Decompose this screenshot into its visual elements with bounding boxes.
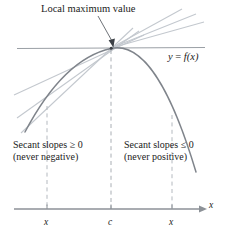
tick-label-left-x: x: [44, 217, 48, 227]
local-maximum-label: Local maximum value: [41, 3, 135, 15]
right-region-annotation: Secant slopes ≤ 0 (never positive): [124, 139, 194, 163]
x-axis-arrowhead: [199, 205, 207, 212]
local-max-point: [110, 47, 113, 50]
left-region-line-1: Secant slopes ≥ 0: [13, 139, 83, 151]
secant-line-left-3: [21, 28, 133, 133]
diagram-canvas: [0, 0, 225, 235]
function-equation-label: y = f(x): [168, 51, 198, 63]
right-region-line-1: Secant slopes ≤ 0: [124, 139, 194, 151]
x-axis-label: x: [209, 200, 213, 210]
local-max-leader-line: [98, 16, 112, 41]
left-region-line-2: (never negative): [13, 151, 83, 163]
function-label-argument: (x): [187, 51, 199, 62]
local-maximum-diagram: Local maximum value y = f(x) Secant slop…: [0, 0, 225, 235]
secant-line-right-2: [111, 14, 196, 48]
tick-label-right-x: x: [169, 217, 173, 227]
left-region-annotation: Secant slopes ≥ 0 (never negative): [13, 139, 83, 163]
tick-label-center-c: c: [108, 217, 112, 227]
right-region-line-2: (never positive): [124, 151, 194, 163]
function-label-equals: =: [173, 51, 184, 62]
